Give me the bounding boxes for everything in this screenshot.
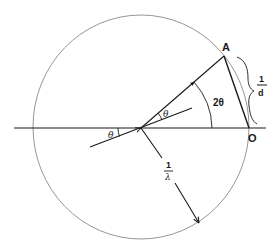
theta-label-left: θ — [108, 130, 114, 140]
reciprocal-vector-line — [224, 56, 249, 128]
radius-line-upper — [141, 128, 162, 158]
ewald-sphere-diagram: A O θ θ 2θ 1 d 1 λ — [0, 0, 277, 251]
reciprocal-d-denominator: d — [258, 88, 264, 98]
two-theta-arc — [194, 82, 212, 128]
reciprocal-d-brace — [237, 57, 257, 124]
theta-label-right: θ — [163, 109, 169, 119]
reciprocal-d-numerator: 1 — [259, 74, 264, 84]
point-a-label: A — [222, 41, 230, 53]
point-o-label: O — [248, 132, 257, 144]
diffracted-beam-line — [141, 56, 224, 128]
theta-arc-right — [158, 113, 162, 120]
reciprocal-lambda-numerator: 1 — [166, 160, 171, 170]
reciprocal-lambda-denominator: λ — [164, 172, 171, 182]
two-theta-label: 2θ — [213, 97, 224, 108]
theta-arc-left — [118, 128, 120, 137]
radius-line-lower — [175, 183, 199, 223]
